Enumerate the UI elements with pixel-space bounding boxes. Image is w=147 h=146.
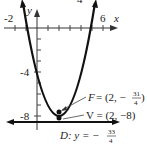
directrix-label: D: y = − 33 4 [59,128,116,145]
y-tick-label-neg4: -4 [20,66,30,78]
curve-arrow-left [20,0,26,8]
parabola-chart: -2 6 x y 4 -4 -8 F = (2, − 31 4 ) V = (2… [0,0,147,146]
y-tick-label-neg8: -8 [20,110,30,122]
focus-point [57,110,62,115]
svg-text:F: F [87,91,95,103]
svg-text:33: 33 [108,128,116,136]
x-axis [4,25,118,31]
x-axis-label: x [113,12,119,24]
svg-text:D: y = −: D: y = − [59,129,100,141]
svg-text:4: 4 [109,137,113,145]
vertex-point [57,116,62,121]
svg-text:4: 4 [134,99,138,107]
x-tick-label-6: 6 [100,12,106,24]
vertex-label: V = (2, −8) [86,109,136,122]
vertex-leader [63,115,84,119]
curve-arrow-right [92,0,98,8]
svg-text:= (2, −: = (2, − [96,91,126,104]
svg-text:31: 31 [133,90,141,98]
focus-label: F = (2, − 31 4 ) [87,90,145,107]
x-tick-label-neg2: -2 [4,12,13,24]
svg-text:): ) [141,91,145,104]
parabola-curve [23,3,95,116]
top-cut-label: 4 [77,0,83,5]
y-axis-label: y [26,4,32,16]
